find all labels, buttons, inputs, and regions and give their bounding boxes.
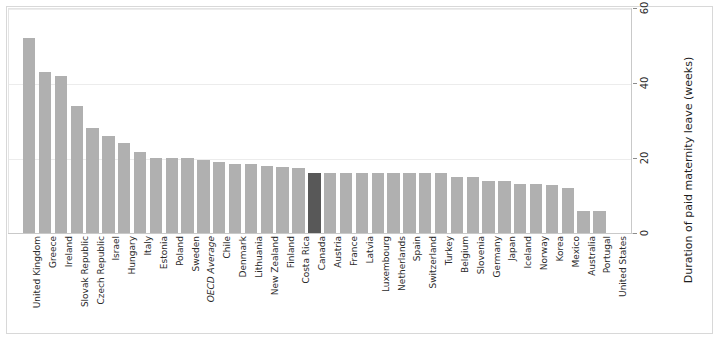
bar-portugal [593, 211, 605, 234]
x-axis-baseline [8, 233, 633, 234]
x-label-lithuania: Lithuania [254, 236, 264, 278]
x-label-turkey: Turkey [444, 236, 454, 265]
bar-hungary [118, 143, 130, 233]
bar-finland [276, 167, 288, 233]
bar-mexico [562, 188, 574, 233]
x-label-slovak-republic: Slovak Republic [80, 236, 90, 307]
bar-austria [324, 173, 336, 233]
x-label-spain: Spain [412, 236, 422, 261]
x-label-poland: Poland [175, 236, 185, 266]
bar-costa-rica [292, 168, 304, 233]
x-label-costa-rica: Costa Rica [301, 236, 311, 284]
bar-italy [134, 152, 146, 233]
bar-chile [213, 162, 225, 233]
bar-sweden [181, 158, 193, 233]
y-tick-mark-0 [633, 233, 637, 234]
x-label-hungary: Hungary [127, 236, 137, 274]
y-tick-mark-20 [633, 158, 637, 159]
x-label-norway: Norway [539, 236, 549, 270]
bar-norway [530, 184, 542, 233]
x-label-luxembourg: Luxembourg [381, 236, 391, 292]
x-label-united-kingdom: United Kingdom [32, 236, 42, 308]
x-label-belgium: Belgium [460, 236, 470, 273]
x-label-mexico: Mexico [571, 236, 581, 267]
x-label-latvia: Latvia [365, 236, 375, 263]
x-label-oecd-average: OECD Average [206, 236, 216, 302]
bar-series [9, 9, 631, 233]
bar-denmark [229, 164, 241, 233]
bar-israel [102, 136, 114, 234]
x-label-iceland: Iceland [523, 236, 533, 269]
bar-iceland [514, 184, 526, 233]
bar-poland [166, 158, 178, 233]
bar-oecd-average [197, 160, 209, 233]
bar-ireland [55, 76, 67, 234]
x-label-greece: Greece [48, 236, 58, 268]
bar-latvia [356, 173, 368, 233]
bar-switzerland [419, 173, 431, 233]
x-label-switzerland: Switzerland [428, 236, 438, 289]
x-axis-category-labels: United KingdomGreeceIrelandSlovak Republ… [8, 236, 632, 336]
x-label-netherlands: Netherlands [397, 236, 407, 291]
y-tick-label-40: 40 [639, 77, 650, 90]
x-label-ireland: Ireland [64, 236, 74, 267]
x-label-austria: Austria [333, 236, 343, 268]
bar-canada [308, 173, 320, 233]
bar-japan [498, 181, 510, 234]
x-label-sweden: Sweden [191, 236, 201, 272]
x-label-slovenia: Slovenia [476, 236, 486, 274]
bar-belgium [451, 177, 463, 233]
bar-estonia [150, 158, 162, 233]
bar-korea [546, 185, 558, 233]
x-label-korea: Korea [555, 236, 565, 262]
x-label-australia: Australia [587, 236, 597, 276]
x-label-united-states: United States [618, 236, 628, 297]
y-tick-mark-60 [633, 8, 637, 9]
y-tick-label-60: 60 [639, 2, 650, 15]
x-label-israel: Israel [111, 236, 121, 261]
y-axis: 0204060 [633, 0, 663, 340]
bar-australia [577, 211, 589, 234]
bar-germany [482, 181, 494, 234]
x-label-canada: Canada [317, 236, 327, 270]
maternity-leave-bar-chart: United KingdomGreeceIrelandSlovak Republ… [0, 0, 719, 340]
bar-lithuania [245, 164, 257, 233]
bar-united-kingdom [23, 38, 35, 233]
bar-slovenia [467, 177, 479, 233]
bar-luxembourg [372, 173, 384, 233]
bar-greece [39, 72, 51, 233]
bar-turkey [435, 173, 447, 233]
y-axis-title: Duration of paid maternity leave (weeks) [682, 57, 695, 283]
bar-czech-republic [86, 128, 98, 233]
bar-france [340, 173, 352, 233]
x-label-czech-republic: Czech Republic [96, 236, 106, 305]
bar-slovak-republic [71, 106, 83, 234]
x-label-chile: Chile [222, 236, 232, 259]
x-label-new-zealand: New Zealand [270, 236, 280, 295]
y-tick-label-20: 20 [639, 152, 650, 165]
y-tick-mark-40 [633, 83, 637, 84]
x-label-japan: Japan [507, 236, 517, 261]
y-tick-label-0: 0 [639, 230, 650, 236]
bar-new-zealand [261, 166, 273, 234]
x-label-finland: Finland [286, 236, 296, 268]
plot-area [8, 8, 632, 233]
x-label-germany: Germany [492, 236, 502, 277]
x-label-france: France [349, 236, 359, 266]
bar-spain [403, 173, 415, 233]
bar-netherlands [387, 173, 399, 233]
x-label-estonia: Estonia [159, 236, 169, 269]
x-label-portugal: Portugal [602, 236, 612, 273]
x-label-italy: Italy [143, 236, 153, 256]
x-label-denmark: Denmark [238, 236, 248, 277]
